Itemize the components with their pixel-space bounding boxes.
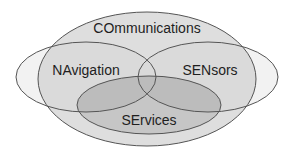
navigation-label: NAvigation	[52, 62, 119, 78]
sensors-label: SENsors	[182, 62, 237, 78]
venn-diagram: COmmunications NAvigation SENsors SErvic…	[0, 0, 294, 156]
communications-label: COmmunications	[93, 20, 200, 36]
venn-svg: COmmunications NAvigation SENsors SErvic…	[0, 0, 294, 156]
services-label: SErvices	[121, 112, 176, 128]
